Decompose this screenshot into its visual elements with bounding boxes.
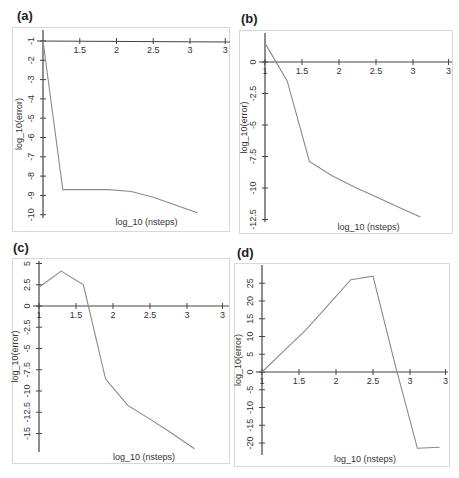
y-tick-label: 0 (245, 369, 255, 374)
y-tick-label: 20 (245, 296, 255, 306)
y-tick-label: 15 (245, 314, 255, 324)
y-tick-label: -10 (245, 401, 255, 414)
y-axis-title: log_10(error) (233, 334, 243, 386)
y-tick-label: -20 (245, 436, 255, 449)
y-tick-label: 10 (245, 331, 255, 341)
y-tick-label: 25 (245, 278, 255, 288)
x-tick-label: 1.5 (293, 376, 306, 386)
x-tick-label: 1 (259, 376, 264, 386)
y-tick-label: 5 (245, 352, 255, 357)
y-tick-label: -5 (245, 386, 255, 394)
y-tick-label: -15 (245, 419, 255, 432)
error-series-line (262, 276, 440, 448)
x-tick-label: 2.5 (367, 376, 380, 386)
panel-d-plot: 11.522.5332520151050-5-10-15-20log_10 (n… (0, 0, 459, 478)
x-tick-label: 3 (407, 376, 412, 386)
x-tick-label: 2 (333, 376, 338, 386)
x-tick-label: 3 (443, 376, 448, 386)
x-axis-title: log_10 (nsteps) (334, 454, 396, 464)
